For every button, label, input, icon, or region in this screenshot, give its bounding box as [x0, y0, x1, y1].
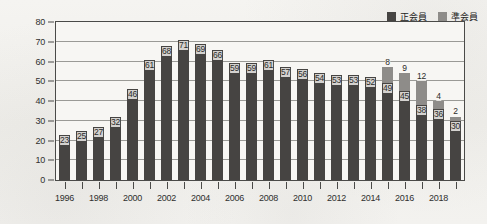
bar-value-label-secondary: 12: [417, 72, 427, 81]
chart-legend: 正会員準会員: [387, 10, 478, 23]
x-tick-mark: [201, 182, 202, 189]
bar-segment-primary: [280, 67, 291, 180]
x-tick-mark: [320, 182, 321, 189]
bar-value-label: 23: [60, 136, 70, 145]
bar-value-label: 61: [145, 61, 155, 70]
x-tick-mark: [371, 182, 372, 189]
y-tick-mark: [48, 160, 54, 161]
bar-segment-primary: [127, 89, 138, 180]
bar-value-label-secondary: 2: [453, 107, 458, 116]
x-tick-mark: [456, 182, 457, 189]
bar-value-label: 36: [434, 110, 444, 119]
bar-segment-primary: [382, 83, 393, 180]
bar-value-label: 61: [264, 61, 274, 70]
x-tick-label: 1998: [89, 193, 108, 203]
bar-value-label: 53: [349, 76, 359, 85]
bar-segment-primary: [314, 73, 325, 180]
y-tick-label: 40: [35, 96, 45, 106]
x-tick-label: 2000: [123, 193, 142, 203]
y-tick-mark: [48, 140, 54, 141]
y-tick-label: 10: [35, 155, 45, 165]
x-tick-label: 2004: [191, 193, 210, 203]
y-tick-label: 30: [35, 116, 45, 126]
x-axis-labels: 1996199820002002200420062008201020122014…: [0, 193, 487, 209]
bar-segment-secondary: [382, 67, 393, 83]
bar-segment-primary: [365, 77, 376, 180]
bar-value-label: 69: [196, 45, 206, 54]
bar-value-label: 25: [77, 132, 87, 141]
bar-segment-primary: [263, 60, 274, 180]
x-tick-label: 2014: [361, 193, 380, 203]
bar-segment-primary: [416, 105, 427, 180]
x-tick-mark: [405, 182, 406, 189]
x-tick-mark: [167, 182, 168, 189]
bar-segment-primary: [229, 63, 240, 180]
bar-segment-primary: [348, 75, 359, 180]
y-tick-label: 80: [35, 17, 45, 27]
bar-segment-secondary: [399, 73, 410, 91]
x-tick-mark: [422, 182, 423, 189]
x-tick-label: 2008: [259, 193, 278, 203]
bar-value-label: 59: [247, 64, 257, 73]
bar-value-label: 46: [128, 90, 138, 99]
bar-value-label: 45: [400, 92, 410, 101]
bar-value-label: 27: [94, 128, 104, 137]
y-tick-mark: [48, 22, 54, 23]
x-tick-mark: [99, 182, 100, 189]
y-axis: 01020304050607080: [0, 21, 54, 181]
bar-segment-primary: [161, 46, 172, 180]
legend-swatch-icon: [438, 12, 447, 21]
bar-segment-primary: [297, 69, 308, 180]
y-tick-label: 70: [35, 37, 45, 47]
x-tick-mark: [303, 182, 304, 189]
y-tick-mark: [48, 81, 54, 82]
y-tick-label: 50: [35, 76, 45, 86]
y-tick-label: 0: [40, 175, 45, 185]
y-tick-mark: [48, 61, 54, 62]
bar-value-label: 71: [179, 41, 189, 50]
bar-segment-primary: [331, 75, 342, 180]
x-tick-label: 2010: [293, 193, 312, 203]
x-tick-mark: [65, 182, 66, 189]
x-tick-mark: [286, 182, 287, 189]
bar-value-label: 68: [162, 47, 172, 56]
bar-value-label-secondary: 4: [436, 92, 441, 101]
bar-value-label-secondary: 9: [402, 64, 407, 73]
bars-container: 2325273246616871696659596157565453535249…: [56, 22, 464, 180]
y-tick-mark: [48, 101, 54, 102]
bar-value-label: 57: [281, 68, 291, 77]
legend-label: 準会員: [451, 10, 478, 23]
x-tick-mark: [133, 182, 134, 189]
bar-value-label: 59: [230, 64, 240, 73]
bar-segment-primary: [212, 50, 223, 180]
x-tick-mark: [388, 182, 389, 189]
x-tick-mark: [82, 182, 83, 189]
x-tick-label: 2016: [395, 193, 414, 203]
y-tick-label: 60: [35, 57, 45, 67]
x-tick-mark: [354, 182, 355, 189]
bar-value-label-secondary: 8: [385, 58, 390, 67]
bar-segment-primary: [246, 63, 257, 180]
legend-swatch-icon: [387, 12, 396, 21]
y-tick-mark: [48, 120, 54, 121]
x-tick-mark: [252, 182, 253, 189]
bar-value-label: 56: [298, 70, 308, 79]
x-tick-mark: [218, 182, 219, 189]
legend-label: 正会員: [400, 10, 427, 23]
bar-value-label: 66: [213, 51, 223, 60]
bar-segment-primary: [195, 44, 206, 180]
x-tick-mark: [235, 182, 236, 189]
legend-item: 正会員: [387, 10, 427, 23]
bar-segment-primary: [178, 40, 189, 180]
bar-value-label: 52: [366, 78, 376, 87]
y-tick-mark: [48, 41, 54, 42]
x-tick-label: 2006: [225, 193, 244, 203]
bar-segment-primary: [433, 109, 444, 180]
x-tick-label: 2018: [429, 193, 448, 203]
chart-screenshot: 01020304050607080 2325273246616871696659…: [0, 0, 487, 224]
x-tick-label: 2002: [157, 193, 176, 203]
x-tick-mark: [150, 182, 151, 189]
y-tick-mark: [48, 180, 54, 181]
bar-value-label: 53: [332, 76, 342, 85]
x-tick-mark: [184, 182, 185, 189]
